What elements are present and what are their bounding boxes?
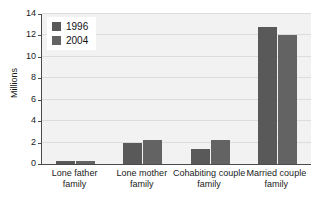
legend-item: 1996 <box>52 21 88 32</box>
x-axis-label: Married couplefamily <box>237 168 316 190</box>
legend-item: 2004 <box>52 35 88 46</box>
legend-swatch-icon <box>52 22 61 31</box>
y-axis-tick-label: 2 <box>14 137 36 147</box>
y-axis-tick-mark <box>38 35 41 36</box>
bar <box>278 35 297 164</box>
y-axis-tick-label: 14 <box>14 8 36 18</box>
bar-group <box>244 14 311 164</box>
bar-chart: Millions 02468101214 Lone fatherfamilyLo… <box>0 0 324 208</box>
y-axis-tick-mark <box>38 57 41 58</box>
y-axis-tick-label: 4 <box>14 115 36 125</box>
bar-group <box>109 14 176 164</box>
bar <box>123 143 142 164</box>
y-axis-tick-label: 8 <box>14 72 36 82</box>
bar <box>56 161 75 164</box>
legend-label: 1996 <box>66 21 88 32</box>
y-axis-tick-mark <box>38 14 41 15</box>
x-axis-label-line: family <box>237 179 316 190</box>
legend-label: 2004 <box>66 35 88 46</box>
y-axis-tick-label: 6 <box>14 94 36 104</box>
legend: 19962004 <box>47 17 96 50</box>
bar-group <box>177 14 244 164</box>
x-axis-label-line: Married couple <box>237 168 316 179</box>
legend-swatch-icon <box>52 36 61 45</box>
bar <box>258 27 277 164</box>
y-axis-tick-mark <box>38 143 41 144</box>
y-axis-tick-mark <box>38 78 41 79</box>
y-axis-tick-mark <box>38 121 41 122</box>
bar <box>143 140 162 164</box>
y-axis-tick-mark <box>38 100 41 101</box>
bar <box>211 140 230 164</box>
y-axis-tick-label: 10 <box>14 51 36 61</box>
bar <box>191 149 210 164</box>
y-axis-tick-label: 12 <box>14 29 36 39</box>
y-axis-tick-label: 0 <box>14 158 36 168</box>
y-axis-tick-mark <box>38 164 41 165</box>
bar <box>76 161 95 164</box>
